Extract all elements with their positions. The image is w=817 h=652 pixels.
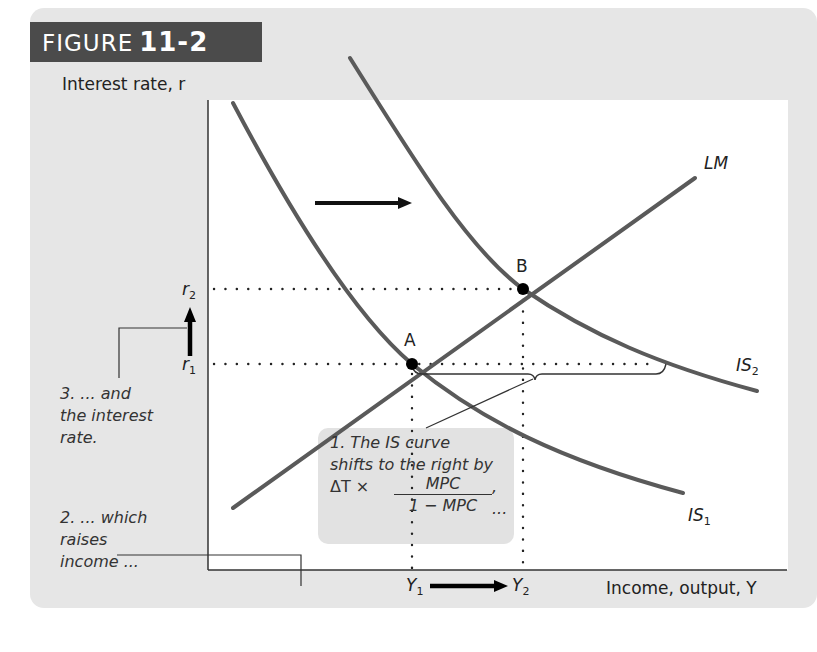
y2-tick-label: Y2 (512, 575, 529, 598)
note-3-line2: the interest (60, 405, 153, 427)
r2-name: r (182, 279, 189, 299)
note-2-line3: income ... (60, 551, 147, 573)
is2-label: IS2 (736, 355, 759, 378)
arrow-right-icon (494, 580, 508, 592)
is2-name: IS (736, 355, 752, 375)
note-2: 2. ... which raises income ... (60, 507, 147, 573)
point-a-label: A (404, 330, 416, 350)
formula-denominator: 1 − MPC (394, 495, 492, 517)
note-3-leader (119, 328, 187, 378)
arrow-up-icon (184, 307, 196, 322)
formula-prefix: ΔT × (330, 476, 369, 498)
note-1-formula: ΔT × MPC , ... 1 − MPC (330, 476, 493, 520)
is2-sub: 2 (752, 365, 759, 378)
r1-sub: 1 (189, 364, 196, 377)
note-1: 1. The IS curve shifts to the right by Δ… (330, 432, 493, 520)
arrow-right-icon (398, 197, 412, 209)
point-b-label: B (516, 256, 528, 276)
r1-tick-label: r1 (182, 354, 196, 377)
point-b (517, 283, 529, 295)
is1-name: IS (688, 505, 704, 525)
note-2-line2: raises (60, 529, 147, 551)
y1-tick-label: Y1 (406, 575, 423, 598)
r2-sub: 2 (189, 289, 196, 302)
note-1-line1: 1. The IS curve (330, 432, 493, 454)
y1-name: Y (406, 575, 416, 595)
x-axis-label: Income, output, Y (606, 578, 757, 598)
formula-suffix: , ... (492, 476, 507, 520)
lm-label: LM (704, 153, 728, 173)
r2-tick-label: r2 (182, 279, 196, 302)
note-2-line1: 2. ... which (60, 507, 147, 529)
point-a (406, 358, 418, 370)
is1-sub: 1 (704, 515, 711, 528)
y2-name: Y (512, 575, 522, 595)
note-3: 3. ... and the interest rate. (60, 383, 153, 449)
shift-bracket (412, 364, 666, 380)
y2-sub: 2 (522, 585, 529, 598)
y1-sub: 1 (416, 585, 423, 598)
formula-numerator: MPC (394, 474, 492, 495)
is1-label: IS1 (688, 505, 711, 528)
note-1-line2: shifts to the right by (330, 454, 493, 476)
note-3-line1: 3. ... and (60, 383, 153, 405)
note-3-line3: rate. (60, 427, 153, 449)
r1-name: r (182, 354, 189, 374)
